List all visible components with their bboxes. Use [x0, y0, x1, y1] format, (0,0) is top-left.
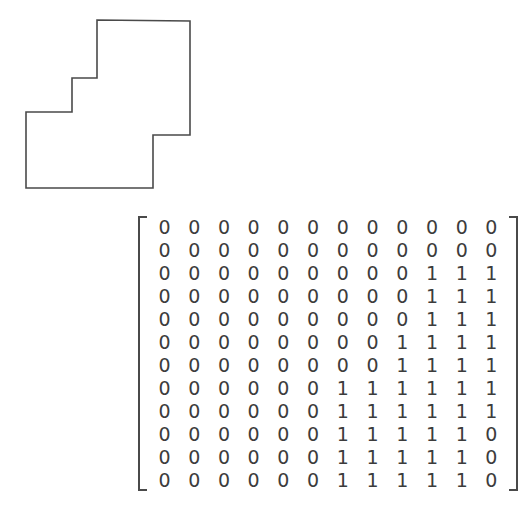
matrix-cell: 1 — [418, 400, 445, 422]
right-bracket-stem — [516, 216, 518, 491]
matrix-block: 0000000000000000000000000000000001110000… — [138, 216, 518, 491]
matrix-cell: 0 — [151, 423, 178, 445]
matrix-cell: 1 — [389, 446, 416, 468]
matrix-cell: 1 — [478, 285, 505, 307]
matrix-cell: 0 — [329, 285, 356, 307]
matrix-cell: 0 — [389, 239, 416, 261]
matrix-cell: 0 — [210, 262, 237, 284]
matrix-cell: 0 — [151, 216, 178, 238]
matrix-cell: 1 — [418, 285, 445, 307]
matrix-cell: 0 — [240, 285, 267, 307]
matrix-cell: 0 — [151, 446, 178, 468]
matrix-cell: 1 — [389, 354, 416, 376]
matrix-cell: 1 — [389, 469, 416, 491]
matrix-cell: 1 — [329, 469, 356, 491]
matrix-cell: 0 — [359, 308, 386, 330]
right-bracket-top-arm — [509, 216, 518, 218]
matrix-cell: 1 — [448, 331, 475, 353]
left-bracket-stem — [138, 216, 140, 491]
matrix-cell: 0 — [270, 423, 297, 445]
matrix-cell: 1 — [389, 377, 416, 399]
matrix-cell: 1 — [448, 377, 475, 399]
matrix-row: 000000111110 — [151, 469, 505, 491]
matrix-cell: 1 — [359, 400, 386, 422]
matrix-cell: 0 — [151, 239, 178, 261]
matrix-cell: 0 — [478, 446, 505, 468]
matrix-row: 000000111110 — [151, 446, 505, 468]
matrix-cell: 1 — [448, 400, 475, 422]
matrix-cell: 0 — [270, 216, 297, 238]
matrix-cell: 0 — [181, 239, 208, 261]
matrix-cell: 0 — [151, 262, 178, 284]
matrix-cell: 1 — [448, 354, 475, 376]
matrix-cell: 1 — [478, 400, 505, 422]
matrix-cell: 0 — [270, 469, 297, 491]
matrix-cell: 0 — [181, 400, 208, 422]
matrix-cell: 0 — [300, 239, 327, 261]
matrix-cell: 1 — [448, 262, 475, 284]
matrix-cell: 0 — [389, 285, 416, 307]
staircase-polygon-outline — [26, 20, 190, 188]
matrix-row: 000000000000 — [151, 239, 505, 261]
matrix-cell: 0 — [300, 423, 327, 445]
matrix-cell: 0 — [151, 354, 178, 376]
matrix-cell: 0 — [448, 239, 475, 261]
matrix-cell: 0 — [300, 216, 327, 238]
page-root: 0000000000000000000000000000000001110000… — [0, 0, 530, 505]
matrix-cell: 1 — [478, 354, 505, 376]
matrix-row: 000000111110 — [151, 423, 505, 445]
matrix-cell: 0 — [210, 446, 237, 468]
matrix-cell: 0 — [151, 377, 178, 399]
matrix-cell: 0 — [270, 400, 297, 422]
matrix-cell: 0 — [210, 308, 237, 330]
matrix-cell: 0 — [181, 331, 208, 353]
matrix-cell: 0 — [270, 446, 297, 468]
matrix-cell: 0 — [240, 354, 267, 376]
matrix-cell: 0 — [300, 331, 327, 353]
matrix-cell: 0 — [210, 400, 237, 422]
matrix-cell: 0 — [389, 262, 416, 284]
matrix-cell: 0 — [359, 285, 386, 307]
matrix-cell: 0 — [240, 423, 267, 445]
matrix-cell: 0 — [270, 285, 297, 307]
matrix-cell: 0 — [300, 308, 327, 330]
matrix-cell: 0 — [359, 262, 386, 284]
matrix-cell: 1 — [448, 285, 475, 307]
matrix-row: 000000000111 — [151, 262, 505, 284]
matrix-cell: 0 — [270, 262, 297, 284]
matrix-cell: 0 — [210, 331, 237, 353]
matrix-cell: 0 — [151, 331, 178, 353]
matrix-cell: 0 — [210, 469, 237, 491]
matrix-cell: 0 — [181, 469, 208, 491]
matrix-cell: 1 — [478, 331, 505, 353]
matrix-cell: 0 — [240, 400, 267, 422]
matrix-cell: 0 — [240, 446, 267, 468]
matrix-cell: 0 — [240, 469, 267, 491]
matrix-cell: 0 — [151, 469, 178, 491]
matrix-cell: 0 — [270, 354, 297, 376]
matrix-cell: 1 — [329, 377, 356, 399]
matrix-cell: 0 — [181, 285, 208, 307]
matrix-cell: 0 — [389, 308, 416, 330]
matrix-cell: 0 — [181, 423, 208, 445]
matrix-cell: 1 — [329, 400, 356, 422]
matrix-cell: 0 — [329, 354, 356, 376]
matrix-cell: 0 — [359, 331, 386, 353]
matrix-cell: 1 — [418, 331, 445, 353]
matrix-grid: 0000000000000000000000000000000001110000… — [149, 216, 507, 491]
matrix-cell: 1 — [329, 446, 356, 468]
matrix-cell: 1 — [389, 331, 416, 353]
matrix-cell: 0 — [181, 446, 208, 468]
matrix-cell: 0 — [329, 216, 356, 238]
matrix-cell: 1 — [418, 377, 445, 399]
matrix-cell: 1 — [329, 423, 356, 445]
matrix-cell: 0 — [240, 216, 267, 238]
matrix-cell: 0 — [181, 308, 208, 330]
matrix-row: 000000000111 — [151, 308, 505, 330]
matrix-cell: 1 — [389, 400, 416, 422]
matrix-cell: 0 — [240, 377, 267, 399]
matrix-cell: 0 — [181, 377, 208, 399]
matrix-cell: 0 — [240, 331, 267, 353]
matrix-cell: 0 — [240, 262, 267, 284]
matrix-cell: 1 — [478, 308, 505, 330]
